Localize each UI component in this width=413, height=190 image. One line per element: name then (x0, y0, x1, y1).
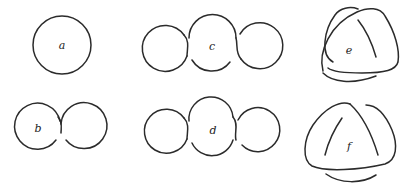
lobe-b-right (61, 103, 107, 149)
crossing-c-left (184, 35, 188, 56)
label-d: d (209, 124, 216, 137)
diagram-f: f (305, 103, 396, 182)
diagram-e: e (322, 8, 399, 82)
diagram-c: c (142, 14, 282, 71)
diagram-d: d (144, 97, 279, 156)
strand-f-main (305, 103, 396, 170)
label-f: f (346, 140, 353, 153)
lobe-d-right (238, 108, 280, 152)
lobe-d-middle-top (189, 97, 233, 121)
lobe-c-left (142, 25, 187, 71)
crossing-d-right (233, 117, 236, 140)
strand-f-right (350, 104, 378, 155)
knot-diagrams-figure: a b c (0, 0, 413, 190)
crossing-d-left (184, 118, 188, 139)
strand-e-bottom (323, 73, 376, 81)
label-c: c (209, 40, 215, 53)
label-b: b (34, 122, 41, 135)
lobe-c-middle-bottom (192, 60, 230, 71)
strand-f-inner (325, 118, 342, 155)
label-e: e (346, 44, 353, 57)
lobe-d-middle-bottom (192, 140, 233, 156)
lobe-d-left (144, 109, 187, 153)
diagram-a: a (33, 16, 91, 74)
lobe-c-middle-top (189, 14, 236, 38)
label-a: a (59, 39, 66, 52)
crossing-c-right (236, 38, 241, 59)
strand-f-bottom (326, 174, 376, 182)
crossing-b (58, 117, 61, 133)
strand-e-inner (358, 20, 376, 57)
lobe-c-right (240, 23, 283, 69)
diagram-b: b (15, 103, 107, 150)
